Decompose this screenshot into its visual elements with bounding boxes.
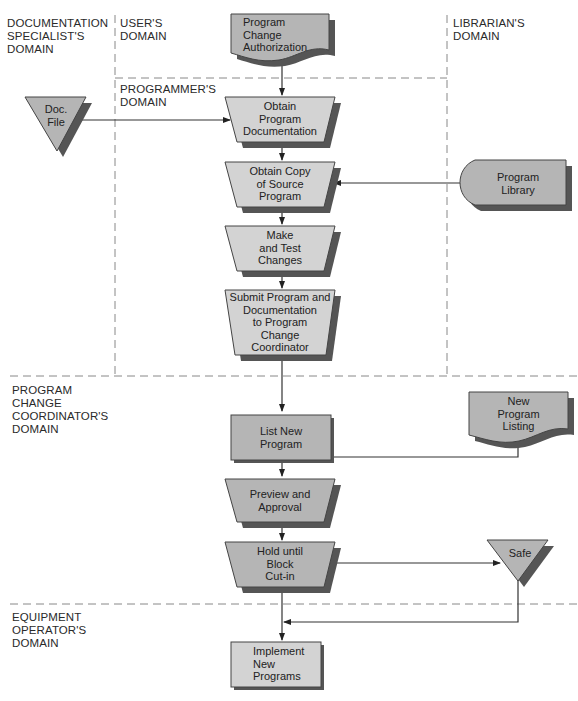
- lane-label-programmer: PROGRAMMER'S DOMAIN: [120, 83, 216, 109]
- lane-label-program-change-coordinator: PROGRAM CHANGE COORDINATOR'S DOMAIN: [12, 384, 108, 436]
- lane-label-documentation-specialist: DOCUMENTATION SPECIALIST'S DOMAIN: [7, 17, 108, 56]
- label-safe: Safe: [500, 547, 540, 560]
- label-list-new-program: List New Program: [231, 425, 331, 450]
- label-preview-approval: Preview and Approval: [225, 488, 335, 513]
- label-program-change-authorization: Program Change Authorization: [243, 16, 333, 54]
- label-new-program-listing: New Program Listing: [469, 395, 568, 433]
- lane-label-equipment-operator: EQUIPMENT OPERATOR'S DOMAIN: [12, 611, 86, 650]
- label-submit-program: Submit Program and Documentation to Prog…: [222, 291, 338, 354]
- lane-label-librarian: LIBRARIAN'S DOMAIN: [453, 17, 525, 43]
- label-program-library: Program Library: [470, 171, 566, 196]
- label-obtain-program-documentation: Obtain Program Documentation: [225, 100, 335, 138]
- label-implement-new-programs: Implement New Programs: [253, 645, 319, 683]
- label-doc-file: Doc. File: [33, 103, 79, 128]
- label-obtain-copy-source: Obtain Copy of Source Program: [225, 165, 335, 203]
- label-make-test-changes: Make and Test Changes: [225, 229, 335, 267]
- label-hold-until-block: Hold until Block Cut-in: [225, 545, 335, 583]
- lane-label-user: USER'S DOMAIN: [120, 17, 167, 43]
